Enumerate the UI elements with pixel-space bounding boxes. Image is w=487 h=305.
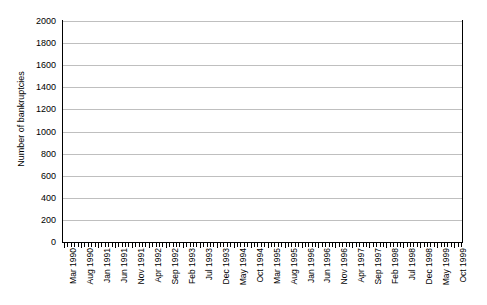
- gridline: [63, 220, 462, 221]
- x-axis-tick: [329, 243, 330, 247]
- x-axis-tick: [95, 243, 96, 247]
- x-tick-label: Mar 1990: [68, 248, 79, 304]
- x-axis-tick: [227, 243, 228, 247]
- x-axis-tick: [315, 243, 316, 247]
- gridline: [63, 65, 462, 66]
- x-tick-label: Oct 1999: [458, 248, 469, 304]
- x-axis-tick: [101, 243, 102, 247]
- y-tick-label: 400: [22, 193, 56, 204]
- x-axis-tick: [410, 243, 411, 247]
- x-axis-tick: [118, 243, 119, 247]
- x-axis-tick: [162, 243, 163, 247]
- x-axis-tick: [346, 243, 347, 247]
- x-tick-label: Jan 1996: [306, 248, 317, 304]
- x-axis-tick: [349, 243, 350, 247]
- x-axis-tick: [220, 243, 221, 247]
- x-axis-tick: [325, 243, 326, 247]
- x-axis-tick: [312, 243, 313, 247]
- x-axis-tick: [417, 243, 418, 247]
- gridline: [63, 176, 462, 177]
- x-axis-tick: [383, 243, 384, 247]
- x-tick-label: Aug 1995: [289, 248, 300, 304]
- x-axis-tick: [380, 243, 381, 247]
- x-axis-tick: [139, 243, 140, 247]
- x-axis-tick: [105, 243, 106, 247]
- y-tick-label: 1400: [22, 82, 56, 93]
- x-axis-tick: [128, 243, 129, 247]
- x-tick-label: Jul 1998: [407, 248, 418, 304]
- x-axis-tick: [298, 243, 299, 247]
- x-axis-tick: [305, 243, 306, 247]
- x-tick-label: Sep 1992: [170, 248, 181, 304]
- x-axis-tick: [441, 243, 442, 247]
- y-tick-label: 600: [22, 171, 56, 182]
- x-axis-tick: [363, 243, 364, 247]
- x-axis-tick: [342, 243, 343, 247]
- x-axis-tick: [74, 243, 75, 247]
- x-axis-tick: [257, 243, 258, 247]
- x-axis-tick-labels: Mar 1990Aug 1990Jan 1991Jun 1991Nov 1991…: [0, 248, 487, 305]
- x-axis-tick: [366, 243, 367, 247]
- x-axis-tick: [288, 243, 289, 247]
- x-axis-tick: [145, 243, 146, 247]
- x-axis-tick: [193, 243, 194, 247]
- x-axis-tick: [390, 243, 391, 247]
- x-tick-label: Jun 1996: [322, 248, 333, 304]
- x-axis-tick: [356, 243, 357, 247]
- x-tick-label: Nov 1996: [339, 248, 350, 304]
- x-tick-label: Apr 1997: [356, 248, 367, 304]
- gridline: [63, 154, 462, 155]
- x-axis-tick: [264, 243, 265, 247]
- gridline: [63, 21, 462, 22]
- x-axis-tick: [339, 243, 340, 247]
- x-axis-tick: [213, 243, 214, 247]
- x-axis-tick: [261, 243, 262, 247]
- x-axis-tick: [207, 243, 208, 247]
- x-axis-tick: [359, 243, 360, 247]
- x-axis-tick: [424, 243, 425, 247]
- x-axis-tick: [427, 243, 428, 247]
- y-tick-label: 1000: [22, 127, 56, 138]
- x-axis-tick: [169, 243, 170, 247]
- x-axis-tick: [295, 243, 296, 247]
- x-axis-tick: [159, 243, 160, 247]
- gridline: [63, 43, 462, 44]
- x-axis-tick: [322, 243, 323, 247]
- x-axis-tick: [291, 243, 292, 247]
- bankruptcies-line-chart: Number of bankruptcies 20001800160014001…: [0, 0, 487, 305]
- x-axis-tick: [122, 243, 123, 247]
- y-tick-label: 2000: [22, 16, 56, 27]
- x-axis-tick: [142, 243, 143, 247]
- x-tick-label: Oct 1994: [255, 248, 266, 304]
- y-tick-label: 200: [22, 215, 56, 226]
- x-axis-tick: [373, 243, 374, 247]
- x-tick-label: Jan 1991: [102, 248, 113, 304]
- x-axis-tick: [88, 243, 89, 247]
- x-axis-tick: [135, 243, 136, 247]
- x-axis-tick: [223, 243, 224, 247]
- x-axis-tick: [179, 243, 180, 247]
- x-axis-tick: [278, 243, 279, 247]
- x-tick-label: Feb 1993: [187, 248, 198, 304]
- x-tick-label: Dec 1998: [424, 248, 435, 304]
- x-axis-tick: [125, 243, 126, 247]
- x-axis-tick: [281, 243, 282, 247]
- x-axis-tick: [108, 243, 109, 247]
- x-axis-tick: [244, 243, 245, 247]
- x-tick-label: Aug 1990: [85, 248, 96, 304]
- x-axis-tick: [407, 243, 408, 247]
- x-axis-tick: [458, 243, 459, 247]
- x-axis-tick: [196, 243, 197, 247]
- x-tick-label: Dec 1993: [221, 248, 232, 304]
- x-axis-tick: [152, 243, 153, 247]
- y-tick-label: 1200: [22, 104, 56, 115]
- plot-area: [63, 21, 462, 242]
- x-axis-tick: [447, 243, 448, 247]
- x-axis-tick: [240, 243, 241, 247]
- y-tick-label: 800: [22, 149, 56, 160]
- gridline: [63, 109, 462, 110]
- x-tick-label: Nov 1991: [136, 248, 147, 304]
- x-axis-tick: [190, 243, 191, 247]
- x-axis-tick: [230, 243, 231, 247]
- x-axis-tick: [71, 243, 72, 247]
